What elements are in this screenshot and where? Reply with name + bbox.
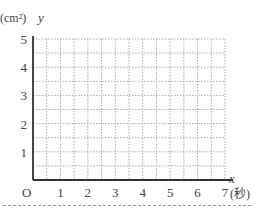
x-tick-labels: 1234567 <box>57 185 229 200</box>
y-axis-variable: y <box>36 10 44 25</box>
grid-lines <box>33 39 225 180</box>
x-tick-label: 2 <box>85 185 92 200</box>
x-tick-label: 4 <box>139 185 146 200</box>
divider-rule <box>3 205 251 206</box>
chart: 1234567 12345 (cm²) y x (秒) O <box>0 0 257 213</box>
y-unit-label: (cm²) <box>0 11 26 25</box>
x-tick-label: 1 <box>57 185 64 200</box>
y-tick-label: 5 <box>21 32 28 47</box>
y-tick-labels: 12345 <box>21 32 28 160</box>
y-tick-label: 3 <box>21 88 28 103</box>
x-tick-label: 7 <box>222 185 229 200</box>
x-tick-label: 3 <box>112 185 119 200</box>
x-axis-variable: x <box>228 171 235 186</box>
x-tick-label: 5 <box>167 185 174 200</box>
y-tick-label: 4 <box>21 60 28 75</box>
x-unit-label: (秒) <box>230 187 250 201</box>
x-tick-label: 6 <box>194 185 201 200</box>
axes <box>33 36 233 180</box>
y-tick-label: 2 <box>21 117 28 132</box>
origin-label: O <box>22 185 31 200</box>
y-tick-label: 1 <box>21 145 28 160</box>
